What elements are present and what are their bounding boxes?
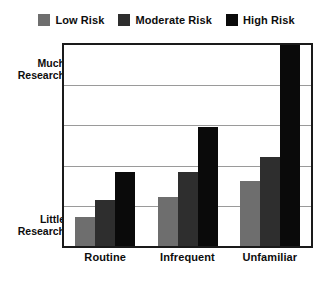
- legend-swatch-low-risk: [38, 14, 50, 26]
- bar-unfamiliar-moderate-risk: [260, 157, 280, 246]
- plot-area: [62, 43, 313, 248]
- chart-legend: Low Risk Moderate Risk High Risk: [0, 11, 333, 29]
- y-axis-label-much-research: Much Research: [0, 58, 65, 81]
- bars-layer: [64, 45, 311, 246]
- y-axis-label-little-research-line2: Research: [0, 226, 65, 238]
- bar-unfamiliar-high-risk: [280, 45, 300, 246]
- legend-label-low-risk: Low Risk: [55, 14, 104, 26]
- x-axis-labels: RoutineInfrequentUnfamiliar: [62, 251, 313, 267]
- y-axis-label-much-research-line2: Research: [0, 70, 65, 82]
- bar-chart-figure: Low Risk Moderate Risk High Risk Much Re…: [0, 0, 333, 288]
- legend-item-moderate-risk[interactable]: Moderate Risk: [118, 14, 212, 26]
- y-axis-label-much-research-line1: Much: [0, 58, 65, 70]
- bar-routine-moderate-risk: [95, 200, 115, 246]
- y-axis-label-little-research: Little Research: [0, 214, 65, 237]
- legend-swatch-high-risk: [226, 14, 238, 26]
- legend-item-low-risk[interactable]: Low Risk: [38, 14, 104, 26]
- bar-routine-low-risk: [75, 217, 95, 246]
- legend-label-moderate-risk: Moderate Risk: [135, 14, 212, 26]
- y-axis-label-little-research-line1: Little: [0, 214, 65, 226]
- bar-routine-high-risk: [115, 172, 135, 246]
- bar-infrequent-moderate-risk: [178, 172, 198, 246]
- bar-infrequent-high-risk: [198, 127, 218, 246]
- legend-label-high-risk: High Risk: [243, 14, 295, 26]
- legend-item-high-risk[interactable]: High Risk: [226, 14, 295, 26]
- bar-unfamiliar-low-risk: [240, 181, 260, 246]
- bar-infrequent-low-risk: [158, 197, 178, 246]
- x-axis-label-unfamiliar: Unfamiliar: [220, 251, 320, 263]
- legend-swatch-moderate-risk: [118, 14, 130, 26]
